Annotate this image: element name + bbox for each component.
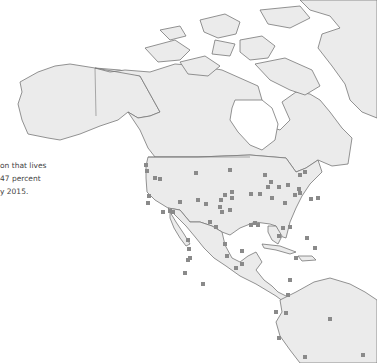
city-marker — [313, 246, 317, 250]
caption: on that lives 47 percent y 2015. — [0, 159, 46, 198]
city-marker — [249, 223, 253, 227]
map — [0, 0, 377, 363]
city-marker — [223, 193, 227, 197]
city-marker — [196, 198, 200, 202]
city-marker — [277, 336, 281, 340]
city-marker — [234, 266, 238, 270]
city-marker — [230, 196, 234, 200]
city-marker — [201, 282, 205, 286]
city-marker — [281, 226, 285, 230]
arctic-island — [160, 26, 186, 40]
caption-line-1: on that lives — [0, 159, 46, 172]
city-marker — [228, 208, 232, 212]
city-marker — [328, 317, 332, 321]
city-marker — [223, 242, 227, 246]
city-marker — [146, 201, 150, 205]
arctic-island — [200, 14, 240, 38]
arctic-island — [255, 58, 320, 95]
city-marker — [283, 201, 287, 205]
city-marker — [145, 169, 149, 173]
arctic-island — [240, 36, 275, 60]
city-marker — [214, 225, 218, 229]
city-marker — [219, 198, 223, 202]
city-marker — [286, 183, 290, 187]
caption-line-2: 47 percent — [0, 172, 46, 185]
city-marker — [277, 234, 281, 238]
cuba — [262, 244, 296, 254]
city-marker — [266, 185, 270, 189]
city-marker — [288, 278, 292, 282]
city-marker — [263, 173, 267, 177]
city-marker — [153, 176, 157, 180]
city-marker — [208, 220, 212, 224]
city-marker — [187, 247, 191, 251]
city-marker — [249, 192, 253, 196]
city-marker — [158, 177, 162, 181]
caption-line-3: y 2015. — [0, 185, 46, 198]
city-marker — [220, 210, 224, 214]
arctic-island — [145, 40, 190, 62]
city-marker — [305, 236, 309, 240]
city-marker — [309, 197, 313, 201]
north-america-map — [0, 0, 377, 363]
city-marker — [361, 353, 365, 357]
south-america-landmass — [276, 278, 377, 363]
city-marker — [298, 191, 302, 195]
city-marker — [230, 190, 234, 194]
city-marker — [286, 293, 290, 297]
arctic-island — [260, 6, 310, 28]
city-marker — [186, 258, 190, 262]
city-marker — [240, 249, 244, 253]
city-marker — [161, 210, 165, 214]
city-marker — [194, 171, 198, 175]
city-marker — [186, 238, 190, 242]
city-marker — [240, 262, 244, 266]
city-marker — [204, 202, 208, 206]
city-marker — [297, 187, 301, 191]
city-marker — [218, 205, 222, 209]
city-marker — [303, 355, 307, 359]
city-marker — [288, 225, 292, 229]
city-marker — [274, 310, 278, 314]
city-marker — [258, 192, 262, 196]
city-marker — [270, 196, 274, 200]
city-marker — [284, 311, 288, 315]
city-marker — [178, 200, 182, 204]
city-marker — [298, 173, 302, 177]
city-marker — [256, 223, 260, 227]
city-marker — [303, 170, 307, 174]
city-marker — [316, 196, 320, 200]
city-marker — [144, 163, 148, 167]
city-marker — [147, 194, 151, 198]
city-marker — [225, 254, 229, 258]
city-marker — [168, 209, 172, 213]
city-marker — [228, 168, 232, 172]
city-marker — [294, 256, 298, 260]
hispaniola — [298, 256, 316, 261]
city-marker — [183, 271, 187, 275]
city-marker — [293, 193, 297, 197]
city-marker — [269, 180, 273, 184]
city-marker — [277, 185, 281, 189]
arctic-island — [212, 40, 235, 56]
